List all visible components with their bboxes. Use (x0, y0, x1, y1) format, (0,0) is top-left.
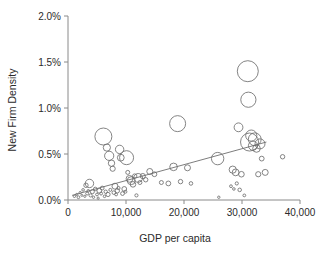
y-tick-label: 0.0% (38, 195, 61, 206)
data-bubble (103, 195, 106, 198)
data-bubble (117, 154, 124, 161)
x-tick-label: 20,000 (169, 207, 200, 218)
data-bubble (120, 151, 134, 165)
data-bubble (77, 196, 80, 199)
data-bubble (115, 193, 118, 196)
data-bubble (237, 61, 258, 82)
x-tick-label: 40,000 (285, 207, 316, 218)
data-bubble (256, 172, 261, 177)
data-bubble (259, 156, 264, 161)
data-bubble (178, 179, 182, 183)
x-axis-title: GDP per capita (139, 232, 211, 244)
data-bubble (238, 188, 242, 192)
y-axis-tick-labels: 0.0%0.5%1.0%1.5%2.0% (38, 11, 61, 206)
data-bubble (84, 195, 86, 197)
x-tick-label: 0 (65, 207, 71, 218)
data-bubble (229, 166, 236, 173)
data-bubble (105, 151, 114, 160)
data-bubble (92, 196, 94, 198)
y-tick-label: 0.5% (38, 149, 61, 160)
data-bubble (262, 169, 268, 175)
data-bubble (189, 182, 193, 186)
data-bubble (230, 185, 233, 188)
data-bubble (126, 170, 130, 174)
data-bubble (82, 189, 85, 192)
axis-tick-marks (64, 16, 300, 204)
data-bubble (170, 116, 186, 132)
data-bubble (109, 188, 112, 191)
x-axis-tick-labels: 010,00020,00030,00040,000 (65, 207, 316, 218)
data-bubbles (73, 61, 285, 200)
data-bubble (239, 171, 245, 177)
data-bubble (218, 196, 220, 198)
data-bubble (108, 160, 114, 166)
data-bubble (280, 155, 284, 159)
data-bubble (246, 130, 257, 141)
bubble-chart-figure: 0.0%0.5%1.0%1.5%2.0% 010,00020,00030,000… (0, 0, 318, 256)
x-tick-label: 30,000 (227, 207, 258, 218)
data-bubble (103, 144, 110, 151)
data-bubble (73, 195, 75, 197)
data-bubble (135, 194, 138, 197)
data-bubble (235, 182, 238, 185)
data-bubble (144, 178, 148, 182)
y-tick-label: 1.0% (38, 103, 61, 114)
data-bubble (159, 181, 163, 185)
data-bubble (106, 192, 110, 196)
x-tick-label: 10,000 (111, 207, 142, 218)
data-bubble (234, 123, 243, 132)
data-bubble (166, 181, 171, 186)
data-bubble (97, 197, 99, 199)
regression-line (72, 142, 266, 195)
data-bubble (96, 193, 99, 196)
y-tick-label: 1.5% (38, 57, 61, 68)
data-bubble (81, 194, 83, 196)
y-tick-label: 2.0% (38, 11, 61, 22)
data-bubble (110, 166, 115, 171)
trend-line (72, 142, 266, 195)
axis-spines (68, 16, 300, 200)
data-bubble (243, 194, 246, 197)
data-bubble (95, 128, 112, 145)
data-bubble (233, 188, 236, 191)
data-bubble (184, 165, 190, 171)
chart-canvas: 0.0%0.5%1.0%1.5%2.0% 010,00020,00030,000… (0, 0, 318, 256)
data-bubble (89, 194, 92, 197)
data-bubble (241, 92, 256, 107)
y-axis-title: New Firm Density (6, 68, 18, 152)
